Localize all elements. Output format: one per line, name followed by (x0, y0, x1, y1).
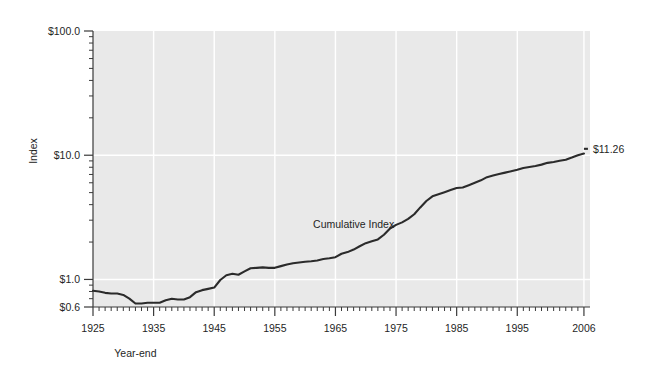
x-tick-label: 1975 (384, 322, 408, 334)
x-tick-label: 1935 (142, 322, 166, 334)
x-tick-label: 1965 (324, 322, 348, 334)
x-tick-label: 1995 (506, 322, 530, 334)
cumulative-index-line-chart: $100.0$10.0$1.0$0.6 19251935194519551965… (0, 0, 648, 378)
y-tick-label: $0.6 (60, 301, 81, 313)
series-annotation-label: Cumulative Index (313, 218, 395, 230)
plot-area-background (93, 31, 590, 307)
y-tick-label: $100.0 (48, 25, 80, 37)
x-axis-tick-labels: 192519351945195519651975198519952006 (81, 322, 595, 334)
end-value-label: $11.26 (593, 143, 624, 155)
x-tick-label: 2006 (572, 322, 596, 334)
x-tick-label: 1955 (263, 322, 287, 334)
y-tick-label: $10.0 (54, 149, 80, 161)
x-axis-title: Year-end (114, 347, 156, 359)
x-tick-label: 1945 (203, 322, 227, 334)
chart-container: $100.0$10.0$1.0$0.6 19251935194519551965… (0, 0, 648, 378)
y-tick-label: $1.0 (60, 273, 81, 285)
x-tick-label: 1985 (445, 322, 469, 334)
x-tick-label: 1925 (81, 322, 105, 334)
y-axis-title: Index (27, 137, 39, 163)
